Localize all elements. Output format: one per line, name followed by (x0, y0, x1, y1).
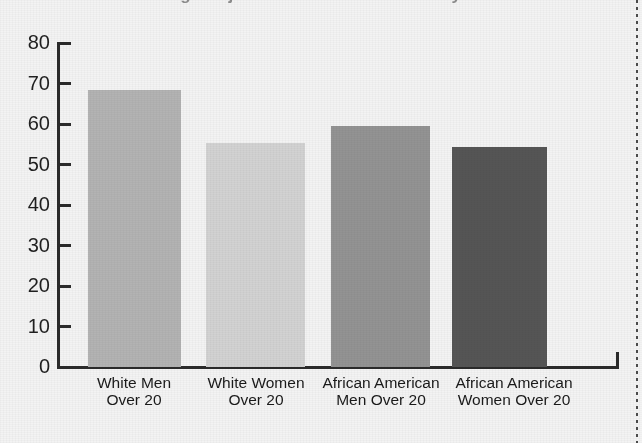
bar (331, 126, 430, 367)
bar (452, 147, 547, 367)
bar (206, 143, 305, 367)
x-axis-category-label: African American Women Over 20 (446, 374, 582, 408)
plot-area: 01020304050607080 White Men Over 20White… (0, 0, 642, 443)
x-axis-category-label: White Women Over 20 (192, 374, 320, 408)
x-axis-category-label: White Men Over 20 (70, 374, 198, 408)
bar-chart-figure: Age-Adjusted Prevalence of Obesity 01020… (0, 0, 642, 443)
x-axis-category-label: African American Men Over 20 (316, 374, 446, 408)
page-edge-artifact (636, 0, 638, 443)
bar (88, 90, 181, 367)
bars-layer (0, 0, 642, 367)
